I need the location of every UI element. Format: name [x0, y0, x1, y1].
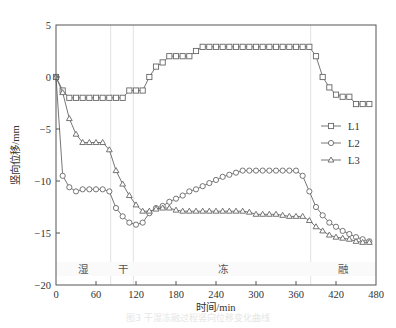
series-l1 — [53, 44, 372, 106]
y-tick-label: −15 — [35, 228, 51, 239]
figure-caption: 图3 干湿冻融过程竖向位移变化曲线 — [0, 311, 396, 324]
plot-frame — [56, 25, 376, 285]
x-tick-label: 420 — [328, 289, 344, 300]
y-axis-title: 竖向位移/mm — [9, 125, 21, 184]
legend-label: L1 — [348, 121, 360, 132]
legend-label: L2 — [348, 138, 360, 149]
phase-label: 冻 — [218, 263, 229, 275]
x-tick-label: 0 — [53, 289, 58, 300]
y-tick-label: −20 — [35, 280, 51, 291]
phase-band — [56, 262, 376, 276]
line-chart: 湿干冻融 060120180240300360420480 50−5−10−15… — [0, 0, 396, 328]
x-tick-label: 240 — [208, 289, 224, 300]
y-tick-label: 5 — [46, 20, 51, 31]
x-tick-label: 180 — [168, 289, 184, 300]
y-tick-label: −10 — [35, 176, 51, 187]
x-tick-label: 60 — [91, 289, 102, 300]
x-axis: 060120180240300360420480 — [53, 281, 384, 300]
data-series — [53, 44, 372, 244]
phase-label: 融 — [338, 263, 349, 275]
legend-item-l1: L1 — [321, 121, 360, 132]
legend: L1L2L3 — [321, 121, 360, 166]
x-tick-label: 480 — [368, 289, 384, 300]
y-tick-label: 0 — [46, 72, 51, 83]
legend-item-l3: L3 — [321, 155, 360, 166]
x-tick-label: 120 — [128, 289, 144, 300]
legend-label: L3 — [348, 155, 360, 166]
legend-item-l2: L2 — [321, 138, 360, 149]
phase-label: 湿 — [78, 263, 89, 275]
y-tick-label: −5 — [40, 124, 51, 135]
phase-dividers — [56, 25, 376, 285]
x-tick-label: 300 — [248, 289, 264, 300]
phase-label: 干 — [118, 263, 128, 275]
x-tick-label: 360 — [288, 289, 304, 300]
